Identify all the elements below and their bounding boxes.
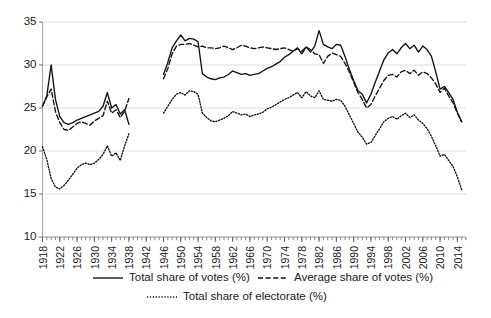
x-tick-label-1994: 1994	[365, 246, 377, 270]
x-tick-label-1978: 1978	[296, 246, 308, 270]
x-tick-label-1918: 1918	[37, 246, 49, 270]
chart-container: 1015202530351918192219261930193419381942…	[0, 0, 491, 318]
series-line-1-seg-1	[164, 44, 462, 122]
x-tick-label-2014: 2014	[452, 246, 464, 270]
y-tick-label-15: 15	[24, 187, 37, 199]
y-tick-label-10: 10	[24, 230, 37, 242]
gridlines	[43, 22, 467, 237]
x-tick-label-1934: 1934	[106, 246, 118, 270]
x-tick-label-1962: 1962	[227, 246, 239, 270]
line-chart: 1015202530351918192219261930193419381942…	[0, 0, 491, 318]
series-group	[43, 31, 462, 190]
x-tick-label-1950: 1950	[175, 246, 187, 270]
y-tick-label-35: 35	[24, 15, 37, 27]
y-axis-ticks: 101520253035	[24, 15, 43, 242]
x-tick-label-2010: 2010	[434, 246, 446, 270]
legend-label-average-share-votes: Average share of votes (%)	[294, 271, 433, 283]
x-tick-label-1954: 1954	[192, 246, 204, 270]
x-tick-label-1938: 1938	[123, 246, 135, 270]
x-tick-label-1998: 1998	[382, 246, 394, 270]
y-tick-label-20: 20	[24, 144, 37, 156]
x-tick-label-1982: 1982	[313, 246, 325, 270]
x-tick-label-1942: 1942	[140, 246, 152, 270]
x-tick-label-2002: 2002	[400, 246, 412, 270]
y-tick-label-25: 25	[24, 101, 37, 113]
series-line-0-seg-0	[43, 65, 129, 124]
series-line-2-seg-0	[43, 134, 129, 189]
series-line-2-seg-1	[164, 91, 462, 190]
x-tick-label-1974: 1974	[279, 246, 291, 270]
legend-label-total-share-electorate: Total share of electorate (%)	[183, 290, 327, 302]
x-tick-label-1970: 1970	[261, 246, 273, 270]
x-tick-label-1958: 1958	[210, 246, 222, 270]
legend-label-total-share-votes: Total share of votes (%)	[129, 271, 250, 283]
x-tick-label-2006: 2006	[417, 246, 429, 270]
x-tick-label-1922: 1922	[54, 246, 66, 270]
chart-legend: Total share of votes (%)Average share of…	[93, 271, 433, 302]
x-tick-label-1966: 1966	[244, 246, 256, 270]
x-tick-label-1930: 1930	[89, 246, 101, 270]
x-tick-label-1986: 1986	[331, 246, 343, 270]
x-tick-label-1990: 1990	[348, 246, 360, 270]
y-tick-label-30: 30	[24, 58, 37, 70]
x-tick-label-1946: 1946	[158, 246, 170, 270]
x-axis-ticks: 1918192219261930193419381942194619501954…	[37, 237, 464, 269]
x-tick-label-1926: 1926	[71, 246, 83, 270]
